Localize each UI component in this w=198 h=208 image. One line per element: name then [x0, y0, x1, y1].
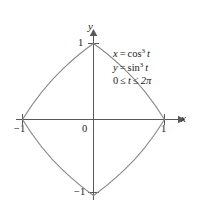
x-axis-label: x: [181, 113, 186, 124]
domain-relation-lower: ≤: [120, 75, 126, 86]
domain-upper-bound: 2π: [141, 75, 152, 86]
equation-y-equals: =: [120, 62, 126, 73]
origin-label: 0: [82, 124, 87, 135]
equation-x-function: cos: [128, 48, 142, 59]
tick-label-y-neg-1: −1: [74, 187, 85, 198]
equation-y-function: sin: [128, 62, 140, 73]
equation-x-lhs: x: [113, 48, 118, 59]
domain-relation-upper: ≤: [133, 75, 139, 86]
equation-annotation: x=cos3t y=sin3t 0≤t≤2π: [113, 47, 151, 88]
tick-label-x-neg-1: −1: [14, 124, 25, 135]
parameter-domain: 0≤t≤2π: [113, 74, 151, 88]
equation-x-exponent: 3: [142, 47, 146, 55]
equation-x-equals: =: [120, 48, 126, 59]
tick-label-x-1: 1: [161, 124, 166, 135]
domain-parameter: t: [128, 75, 131, 86]
equation-y-argument: t: [145, 62, 148, 73]
equation-y-lhs: y: [113, 62, 118, 73]
astroid-figure: y x 1 −1 −1 1 0 x=cos3t y=sin3t 0≤t≤2π: [0, 0, 198, 208]
equation-y-exponent: 3: [140, 60, 144, 68]
domain-lower-bound: 0: [113, 75, 118, 86]
plot-canvas: [0, 0, 198, 208]
equation-y: y=sin3t: [113, 61, 151, 75]
equation-x-argument: t: [147, 48, 150, 59]
tick-label-y-1: 1: [78, 38, 83, 49]
equation-x: x=cos3t: [113, 47, 151, 61]
y-axis-label: y: [88, 21, 93, 32]
